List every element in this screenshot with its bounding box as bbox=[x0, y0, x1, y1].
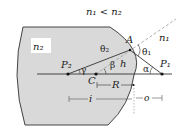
gamma-label: γ bbox=[81, 65, 86, 75]
h-label: h bbox=[120, 58, 126, 69]
condition-label: n₁ < n₂ bbox=[86, 6, 122, 17]
theta1-label: θ₁ bbox=[142, 47, 151, 57]
point-a bbox=[129, 49, 131, 51]
alpha-arc bbox=[150, 67, 153, 74]
c-label: C bbox=[88, 75, 96, 86]
p1-label: P₁ bbox=[159, 58, 171, 69]
point-p2 bbox=[66, 72, 69, 75]
n1-label: n₁ bbox=[159, 32, 169, 43]
beta-label: β bbox=[110, 60, 115, 70]
n2-label: n₂ bbox=[33, 41, 43, 52]
o-label: o bbox=[144, 93, 150, 103]
a-label: A bbox=[125, 34, 133, 45]
i-label: i bbox=[89, 93, 92, 104]
p2-label: P₂ bbox=[60, 59, 72, 70]
r-label: R bbox=[111, 79, 120, 90]
theta1-arc bbox=[138, 45, 140, 57]
refraction-diagram: n₁ < n₂ n₂ n₁ A θ₂ θ₁ P₂ P₁ γ β h α C R … bbox=[0, 0, 179, 135]
point-p1 bbox=[160, 72, 163, 75]
theta2-label: θ₂ bbox=[100, 44, 109, 54]
alpha-label: α bbox=[143, 64, 149, 74]
